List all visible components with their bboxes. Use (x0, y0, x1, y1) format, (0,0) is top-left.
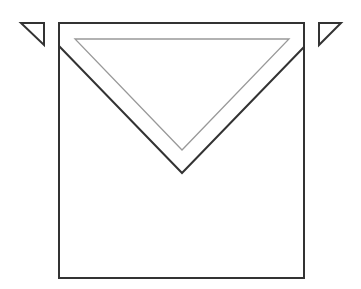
left-small-triangle (21, 23, 44, 45)
envelope-diagram (0, 0, 361, 289)
right-small-triangle (319, 23, 341, 45)
envelope-v-flap (59, 46, 304, 173)
